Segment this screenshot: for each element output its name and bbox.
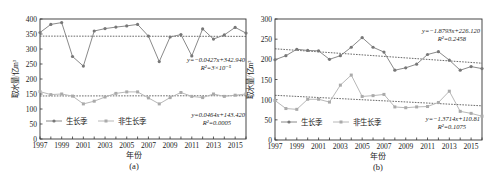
square-marker [136,90,139,93]
star-marker [361,36,364,39]
data-line [275,75,482,116]
x-tick-label: 2009 [398,142,413,151]
star-marker [459,69,462,72]
star-marker [317,49,320,52]
square-marker [71,95,74,98]
star-marker [201,27,204,30]
x-tick-label: 2015 [228,141,243,150]
square-marker [404,106,407,109]
x-tick-label: 2013 [442,142,457,151]
y-tick-label: 200 [261,55,273,64]
square-marker [328,101,331,104]
square-marker [223,95,226,98]
star-marker [437,50,440,53]
star-marker [426,53,429,56]
y-tick-label: 300 [26,45,38,54]
star-marker [404,66,407,69]
square-marker [372,94,375,97]
square-marker [114,92,117,95]
series-non-growing-season [39,90,248,105]
star-marker [415,63,418,66]
star-marker-icon [52,119,55,122]
r-squared: R²=3×10⁻⁵ [200,64,232,71]
chart-panel-a: 0501001502002503003504001997199920012003… [10,15,248,171]
star-marker [82,65,85,68]
star-marker [448,59,451,62]
square-marker-icon [340,121,343,124]
x-tick-label: 2005 [119,141,134,150]
square-marker [190,95,193,98]
square-marker [179,91,182,94]
y-tick-label: 250 [26,60,38,69]
x-tick-label: 2007 [141,141,156,150]
square-marker [393,105,396,108]
y-tick-label: 50 [30,120,38,129]
square-marker [481,115,484,118]
star-marker [470,65,473,68]
star-marker [136,23,139,26]
y-tick-label: 150 [26,90,38,99]
star-marker [306,49,309,52]
square-marker [274,99,277,102]
x-tick-label: 2003 [333,142,348,151]
square-marker-icon [105,120,108,123]
trend-equation: y=−0.0427x+342.940 [186,56,246,63]
star-marker [371,46,374,49]
legend: 生长季非生长季 [281,117,382,127]
panel-label: (a) [129,161,139,171]
square-marker [459,110,462,113]
square-marker [49,93,52,96]
star-marker [179,33,182,36]
x-tick-label: 2009 [163,141,178,150]
trend-equation: y=−1.3714x+110.81 [425,115,480,122]
star-marker [103,27,106,30]
chart-panel-b: 0501001502002503001997199920012003200520… [245,15,484,172]
panel-label: (b) [373,162,383,172]
y-tick-label: 250 [261,35,273,44]
square-marker [415,105,418,108]
star-marker [244,31,247,34]
star-marker [125,24,128,27]
legend-label-nongrowing: 非生长季 [118,116,147,126]
y-tick-label: 100 [26,105,38,114]
x-tick-label: 2001 [311,142,326,151]
square-marker [361,95,364,98]
square-marker [147,96,150,99]
star-marker [339,54,342,57]
series-non-growing-season [274,74,484,118]
square-marker [350,74,353,77]
legend-label-nongrowing: 非生长季 [353,117,382,127]
star-marker [480,67,483,70]
star-marker [169,35,172,38]
star-marker [93,29,96,32]
data-line [40,92,246,104]
star-marker [158,60,161,63]
trend-equation: y=−1.8793x+226.120 [421,27,481,34]
square-marker [104,96,107,99]
star-marker [284,54,287,57]
square-marker [317,98,320,101]
x-tick-label: 1997 [33,141,48,150]
square-marker [158,102,161,105]
y-tick-label: 300 [261,15,273,24]
square-marker [426,105,429,108]
x-tick-label: 1999 [54,141,69,150]
r-squared: R²=0.1075 [437,123,467,130]
star-marker [234,26,237,29]
x-tick-label: 2003 [98,141,113,150]
star-marker [49,23,52,26]
legend-label-growing: 生长季 [66,116,88,126]
star-marker [147,35,150,38]
square-marker [39,90,42,93]
y-tick-label: 100 [261,96,273,105]
star-marker [295,48,298,51]
x-tick-label: 2011 [184,141,199,150]
square-marker [93,100,96,103]
star-marker [71,55,74,58]
square-marker [60,93,63,96]
trend-equation: y=0.0464x+143.420 [190,111,245,118]
square-marker [212,93,215,96]
star-marker-icon [287,120,290,123]
r-squared: R²=0.2458 [437,35,467,42]
y-tick-label: 50 [265,116,273,125]
